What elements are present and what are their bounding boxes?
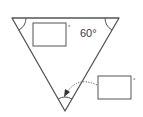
- known-angle-label: 60°: [80, 27, 97, 39]
- angle-input-box-bottom[interactable]: [98, 76, 131, 99]
- angle-input-box-top-left[interactable]: [33, 23, 66, 46]
- dotted-pointer-arrow: [67, 82, 97, 92]
- triangle-diagram: ° 60° °: [0, 0, 143, 117]
- angle-arc-top-right: [105, 18, 112, 30]
- angle-arc-bottom: [58, 97, 72, 99]
- degree-symbol-box2: °: [133, 77, 136, 83]
- degree-symbol-box1: °: [68, 24, 71, 30]
- angle-arc-top-left: [19, 18, 26, 30]
- arrowhead-icon: [64, 89, 70, 97]
